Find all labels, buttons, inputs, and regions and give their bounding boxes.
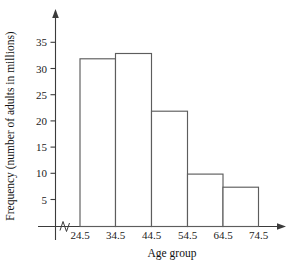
y-axis-ticks: [51, 42, 56, 199]
y-tick-label-5: 5: [42, 194, 48, 206]
x-axis-tick-labels: 24.5 34.5 44.5 54.5 64.5 74.5: [70, 229, 268, 241]
bar-54-5: [188, 174, 224, 226]
bar-64-5: [223, 187, 259, 226]
bar-24-5: [80, 59, 116, 227]
y-tick-label-15: 15: [36, 141, 48, 153]
x-axis-title: Age group: [148, 247, 197, 260]
x-tick-label-64-5: 64.5: [213, 229, 233, 241]
histogram-plot: 35 30 25 20 15 10 5 24.5 34.5 44.5 54.5 …: [0, 0, 291, 265]
y-axis-title: Frequency (number of adults in millions): [4, 31, 17, 221]
bar-34-5: [116, 54, 152, 227]
x-tick-label-74-5: 74.5: [249, 229, 269, 241]
x-tick-label-24-5: 24.5: [70, 229, 90, 241]
histogram-figure: 35 30 25 20 15 10 5 24.5 34.5 44.5 54.5 …: [0, 0, 291, 265]
y-tick-label-35: 35: [36, 36, 48, 48]
y-tick-label-25: 25: [36, 89, 48, 101]
bar-44-5: [152, 111, 188, 226]
x-tick-label-54-5: 54.5: [178, 229, 198, 241]
histogram-bars: [80, 54, 259, 227]
x-tick-label-34-5: 34.5: [106, 229, 126, 241]
y-tick-label-10: 10: [36, 167, 48, 179]
axis-break-icon: [60, 222, 70, 232]
x-tick-label-44-5: 44.5: [142, 229, 162, 241]
y-axis-tick-labels: 35 30 25 20 15 10 5: [36, 36, 48, 205]
y-tick-label-20: 20: [36, 115, 48, 127]
y-axis-arrow-icon: [52, 9, 59, 18]
x-axis-arrow-icon: [277, 223, 286, 230]
y-tick-label-30: 30: [36, 63, 48, 75]
